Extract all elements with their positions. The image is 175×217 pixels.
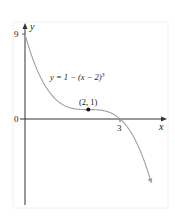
cubic-function-graph: y x 9 0 3 (2, 1) y = 1 − (x − 2)3: [0, 0, 175, 217]
figure-frame: [13, 22, 168, 208]
point-2-1: [86, 108, 90, 112]
equation-main: y = 1 − (x − 2): [49, 72, 102, 82]
point-label: (2, 1): [79, 97, 98, 107]
x-tick-label-3: 3: [117, 123, 122, 133]
x-axis-label: x: [158, 121, 164, 132]
y-axis-arrow-icon: [23, 23, 28, 29]
y-tick-label-0: 0: [14, 114, 19, 124]
equation-exponent: 3: [101, 72, 105, 78]
y-axis-label: y: [29, 21, 35, 32]
curve-arrow-icon: [148, 178, 153, 183]
y-tick-label-9: 9: [14, 29, 19, 39]
equation-label: y = 1 − (x − 2)3: [49, 72, 105, 83]
